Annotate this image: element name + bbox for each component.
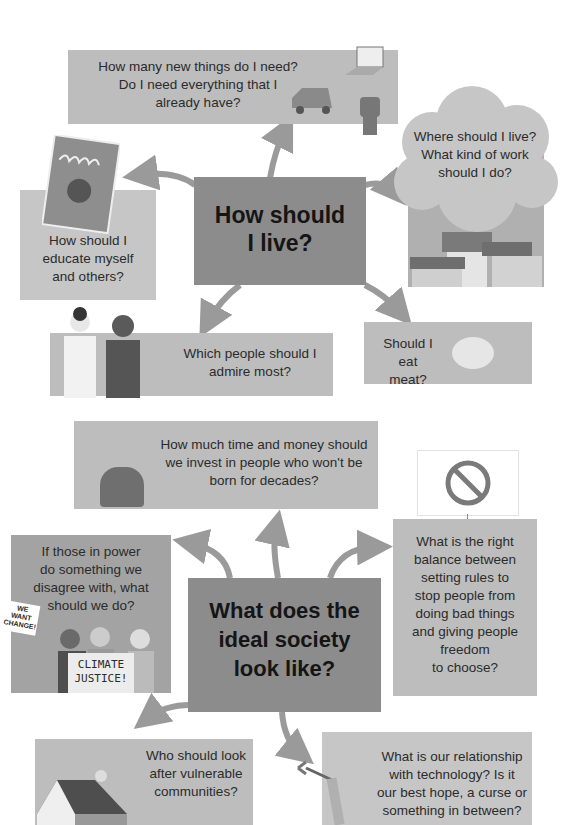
question-box-rules: What is the right balance between settin… [393,519,537,696]
hub-title: How should [194,201,366,229]
question-text: do something we [11,561,171,579]
hub-how-should-i-live: How should I live? [194,177,366,285]
question-text: How many new things do I need? [88,58,308,76]
question-live-work: Where should I live? What kind of work s… [410,128,540,182]
question-text: should I do? [410,164,540,182]
protest-sign-climate-justice: CLIMATE JUSTICE! [68,653,134,693]
arrow-right [365,184,395,192]
question-text: Should I [378,335,438,353]
car-icon [288,84,338,116]
arrow2-left [190,543,230,578]
question-text: freedom [393,641,537,659]
hub-ideal-society: What does the ideal society look like? [188,578,381,712]
flooded-house-illustration [35,766,130,825]
question-text: to choose? [393,659,537,677]
question-text: communities? [143,783,249,801]
cloud-houses-illustration [392,82,560,287]
question-text: Which people should I [170,345,330,363]
question-text: Where should I live? [410,128,540,146]
question-box-future: How much time and money should we invest… [74,421,378,509]
question-text: disagree with, what [11,579,171,597]
hub-title: look like? [188,654,381,683]
question-text: How much time and money should [154,436,374,454]
question-text: educate myself [20,250,156,268]
question-box-technology: What is our relationship with technology… [322,732,532,825]
baby-bear-illustration [100,467,144,507]
hub-title: What does the [188,596,381,625]
question-text: Who should look [143,747,249,765]
question-text: and giving people [393,623,537,641]
question-text: What is our relationship [372,748,532,766]
people-illustration [58,306,150,398]
robot-arm-illustration [292,758,352,825]
question-text: What kind of work [410,146,540,164]
question-text: after vulnerable [143,765,249,783]
question-text: doing bad things [393,605,537,623]
no-entry-icon [418,451,518,515]
arrow-down-right [365,285,400,312]
question-text: eat meat? [378,353,438,389]
arrow2-up [274,527,278,578]
arrow-down-left [208,285,240,322]
hub-title: ideal society [188,625,381,654]
hub-title: I live? [194,229,366,257]
arrow-left [140,174,195,185]
protest-sign-we-want-change: WE WANT CHANGE! [2,600,41,635]
arrow-up [270,130,285,178]
arrow2-right [330,547,375,578]
question-text: setting rules to [393,569,537,587]
question-text: stop people from [393,587,537,605]
animal-face-illustration [452,337,494,369]
question-text: already have? [88,94,308,112]
question-text: something in between? [372,802,532,820]
question-box-meat: Should I eat meat? [364,322,532,384]
arrow2-down-left [148,705,190,718]
question-text: with technology? Is it [372,766,532,784]
question-text: Do I need everything that I [88,76,308,94]
question-text: admire most? [170,363,330,381]
question-text: balance between [393,551,537,569]
book-illustration [42,135,120,235]
question-text: we invest in people who won't be [154,454,374,472]
question-text: If those in power [11,543,171,561]
prohibition-sign [417,450,519,516]
question-text: born for decades? [154,472,374,490]
question-text: What is the right [393,533,537,551]
question-text: our best hope, a curse or [372,784,532,802]
arrow2-down-right [282,712,300,753]
question-text: and others? [20,268,156,286]
laptop-car-bear-illustration [335,45,395,135]
